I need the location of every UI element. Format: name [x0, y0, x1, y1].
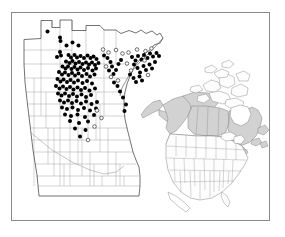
occurrence-point-filled: [84, 128, 88, 132]
occurrence-point-filled: [95, 57, 99, 61]
occurrence-point-filled: [132, 63, 136, 67]
occurrence-point-filled: [121, 96, 125, 100]
occurrence-point-filled: [153, 60, 157, 64]
occurrence-point-filled: [82, 68, 86, 72]
occurrence-point-filled: [73, 74, 77, 78]
occurrence-point-filled: [79, 88, 83, 92]
occurrence-point-open: [109, 75, 113, 79]
occurrence-point-open: [127, 51, 131, 55]
occurrence-point-filled: [148, 63, 152, 67]
occurrence-point-filled: [54, 84, 58, 88]
occurrence-point-filled: [106, 56, 110, 60]
occurrence-point-filled: [138, 71, 142, 75]
inset-prairie-provinces: [188, 106, 229, 136]
occurrence-point-filled: [58, 50, 62, 54]
occurrence-point-filled: [88, 109, 92, 113]
occurrence-point-open: [129, 69, 133, 73]
occurrence-points-filled: [46, 30, 162, 139]
occurrence-point-filled: [89, 93, 93, 97]
occurrence-point-filled: [65, 44, 69, 48]
occurrence-point-filled: [72, 81, 76, 85]
occurrence-point-filled: [151, 55, 155, 59]
occurrence-point-filled: [134, 80, 138, 84]
occurrence-point-filled: [110, 65, 114, 69]
occurrence-point-filled: [79, 66, 83, 70]
occurrence-point-filled: [94, 67, 98, 71]
occurrence-point-open: [116, 79, 120, 83]
inset-florida: [221, 192, 230, 207]
occurrence-point-filled: [148, 52, 152, 56]
occurrence-point-filled: [128, 73, 132, 77]
occurrence-point-filled: [69, 56, 73, 60]
occurrence-point-filled: [102, 54, 106, 58]
occurrence-point-filled: [109, 60, 113, 64]
occurrence-point-filled: [75, 95, 79, 99]
occurrence-point-filled: [68, 119, 72, 123]
occurrence-point-filled: [58, 36, 62, 40]
occurrence-point-filled: [58, 99, 62, 103]
occurrence-point-filled: [88, 89, 92, 93]
occurrence-point-filled: [58, 87, 62, 91]
occurrence-point-filled: [77, 44, 81, 48]
occurrence-point-filled: [65, 80, 69, 84]
occurrence-point-filled: [78, 135, 82, 139]
occurrence-point-filled: [69, 114, 73, 118]
occurrence-point-filled: [71, 106, 75, 110]
occurrence-point-filled: [55, 55, 59, 59]
occurrence-point-filled: [62, 78, 66, 82]
occurrence-point-filled: [68, 85, 72, 89]
occurrence-point-open: [86, 138, 90, 142]
occurrence-point-filled: [93, 63, 97, 67]
occurrence-point-filled: [93, 87, 97, 91]
inset-arctic-islands: [190, 60, 250, 109]
occurrence-point-filled: [80, 93, 84, 97]
occurrence-point-filled: [59, 54, 63, 58]
occurrence-point-open: [107, 51, 111, 55]
occurrence-point-filled: [64, 60, 68, 64]
occurrence-point-filled: [86, 66, 90, 70]
occurrence-point-filled: [81, 81, 85, 85]
occurrence-point-filled: [85, 79, 89, 83]
occurrence-point-open: [100, 116, 104, 120]
inset-usa-lower: [166, 134, 248, 200]
occurrence-point-filled: [86, 120, 90, 124]
occurrence-point-open: [150, 47, 154, 51]
river-line: [30, 132, 124, 174]
occurrence-point-filled: [63, 92, 67, 96]
occurrence-point-filled: [82, 106, 86, 110]
occurrence-point-filled: [142, 53, 146, 57]
occurrence-point-filled: [63, 71, 67, 75]
map-svg: [0, 0, 285, 237]
occurrence-point-filled: [75, 99, 79, 103]
occurrence-point-filled: [91, 69, 95, 73]
occurrence-point-open: [144, 49, 148, 53]
occurrence-point-filled: [61, 85, 65, 89]
occurrence-point-filled: [69, 78, 73, 82]
occurrence-point-filled: [119, 58, 123, 62]
occurrence-point-filled: [65, 107, 69, 111]
north-america-inset: [141, 60, 269, 212]
minnesota-state-outline: [24, 20, 163, 196]
occurrence-point-filled: [66, 65, 70, 69]
occurrence-point-filled: [138, 75, 142, 79]
occurrence-point-filled: [56, 92, 60, 96]
occurrence-point-open: [114, 48, 118, 52]
occurrence-point-filled: [76, 113, 80, 117]
occurrence-point-filled: [114, 68, 118, 72]
occurrence-point-filled: [107, 69, 111, 73]
occurrence-point-filled: [92, 113, 96, 117]
occurrence-point-filled: [83, 115, 87, 119]
occurrence-point-filled: [85, 72, 89, 76]
occurrence-point-open: [146, 73, 150, 77]
occurrence-point-filled: [67, 73, 71, 77]
occurrence-point-filled: [136, 54, 140, 58]
occurrence-point-filled: [123, 109, 127, 113]
occurrence-point-open: [143, 59, 147, 63]
occurrence-point-filled: [83, 86, 87, 90]
minnesota-county-map: [24, 20, 163, 196]
occurrence-point-filled: [84, 100, 88, 104]
occurrence-point-filled: [140, 79, 144, 83]
occurrence-point-filled: [118, 90, 122, 94]
occurrence-point-filled: [62, 101, 66, 105]
occurrence-point-filled: [150, 67, 154, 71]
